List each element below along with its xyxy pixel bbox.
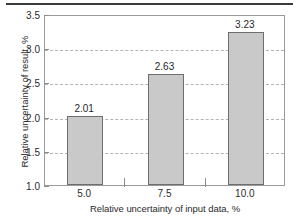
y-axis-tick-label: 3.0 [6,44,40,55]
x-axis-tick-mark [205,178,206,187]
y-axis-tick-mark [44,186,49,187]
bar-value-label: 2.01 [74,103,93,114]
y-axis-tick-label: 2.5 [6,78,40,89]
y-axis-tick-mark [44,83,49,84]
page-rule [6,3,293,5]
y-axis-tick-label: 1.0 [6,181,40,192]
bar [148,74,184,185]
bar-value-label: 3.23 [235,19,254,30]
x-axis-tick-mark [124,178,125,187]
y-axis-tick-mark [44,49,49,50]
y-axis-tick-mark [44,152,49,153]
y-axis-tick-labels: 1.01.52.02.53.03.5 [0,15,40,186]
x-axis-title: Relative uncertainty of input data, % [40,203,290,214]
x-axis-tick-label: 10.0 [235,188,254,199]
y-axis-tick-mark [44,118,49,119]
y-axis-tick-label: 2.0 [6,112,40,123]
x-axis-tick-label: 7.5 [158,188,172,199]
y-axis-tick-mark [44,15,49,16]
bar-value-label: 2.63 [155,61,174,72]
bar [228,32,264,185]
y-axis-tick-label: 3.5 [6,10,40,21]
x-axis-tick-label: 5.0 [77,188,91,199]
y-axis-tick-label: 1.5 [6,146,40,157]
bar [67,116,103,185]
figure-container: Relative uncertainty of result, % 1.01.5… [0,0,299,221]
plot-area [44,15,285,186]
